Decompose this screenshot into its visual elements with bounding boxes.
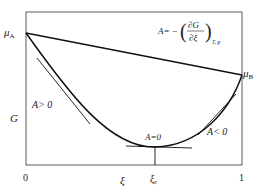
xi-e-label: ξe [150, 173, 157, 185]
x-start-label: 0 [23, 172, 28, 183]
svg-text:∂ξ: ∂ξ [189, 33, 197, 43]
y-axis-label: G [10, 112, 18, 124]
x-axis-label: ξ [120, 174, 125, 187]
svg-text:(: ( [180, 20, 187, 43]
svg-text:T, p: T, p [212, 39, 220, 45]
region-left-label: A> 0 [31, 99, 52, 110]
affinity-formula: A= − ( ∂G ∂ξ ) T, p [157, 20, 220, 45]
mu-b-label: μB [242, 67, 254, 81]
svg-text:): ) [205, 20, 212, 43]
x-end-label: 1 [239, 172, 244, 183]
svg-text:∂G: ∂G [188, 20, 199, 30]
gibbs-energy-diagram: μA μB G 0 1 ξ ξe A> 0 A=0 A< 0 A= − ( ∂G… [0, 0, 259, 191]
region-min-label: A=0 [144, 132, 162, 142]
mu-a-label: μA [3, 26, 15, 40]
region-right-label: A< 0 [206, 126, 227, 137]
svg-text:A= −: A= − [157, 26, 178, 36]
tangent-left [37, 58, 90, 124]
